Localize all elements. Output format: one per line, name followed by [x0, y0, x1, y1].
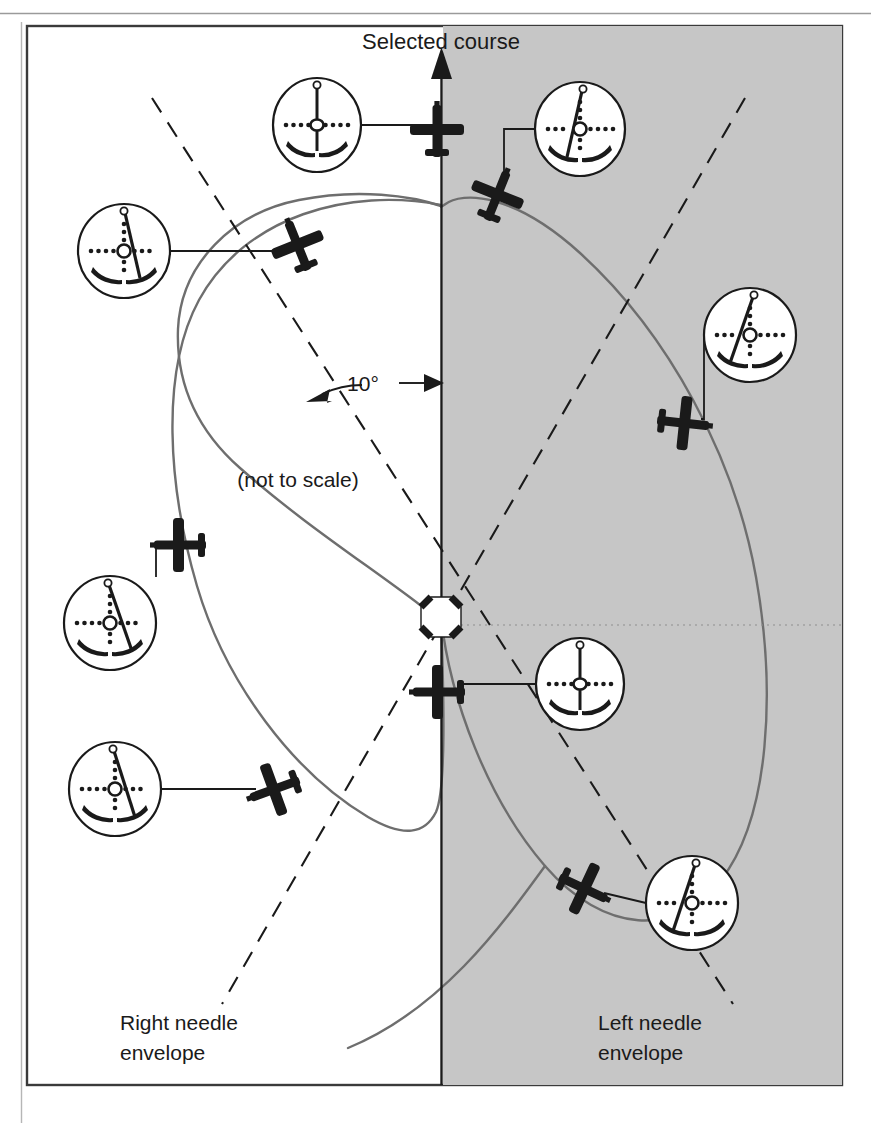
ten-degree-label: 10° [347, 372, 379, 395]
cdi-lower-left [69, 742, 161, 836]
left-needle-envelope-label-line1: Left needle [598, 1011, 702, 1034]
right-needle-envelope-label-line1: Right needle [120, 1011, 238, 1034]
not-to-scale-label: (not to scale) [237, 468, 358, 491]
cdi-upper-right [704, 288, 796, 382]
cdi-lower-right [646, 856, 738, 950]
selected-course-label: Selected course [362, 29, 520, 54]
right-needle-envelope-label-line2: envelope [120, 1041, 205, 1064]
left-needle-envelope-label-line2: envelope [598, 1041, 683, 1064]
cdi-mid-right [536, 638, 624, 730]
vor-course-deviation-diagram: 10° (not to scale) Selected course Right… [0, 0, 871, 1123]
vor-station-symbol [421, 597, 461, 637]
figure-page: 10° (not to scale) Selected course Right… [0, 0, 871, 1123]
cdi-mid-left [64, 576, 156, 670]
cdi-upper-left [78, 204, 170, 298]
cdi-top-right [535, 82, 625, 176]
cdi-top-left [273, 78, 361, 172]
